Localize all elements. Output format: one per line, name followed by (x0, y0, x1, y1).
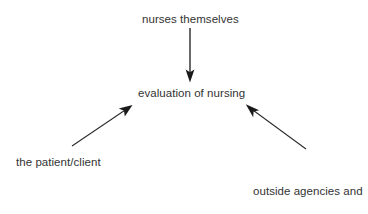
node-label-the-patient-client: the patient/client (16, 155, 101, 169)
node-label-outside-agencies: outside agencies and organisations and o… (253, 156, 363, 214)
arrow-nurses-to-evaluation (186, 28, 195, 83)
diagram-canvas: nurses themselves evaluation of nursing … (0, 0, 368, 214)
arrow-patient-to-evaluation (72, 105, 133, 146)
node-label-nurses-themselves: nurses themselves (142, 12, 239, 26)
arrow-shaft-right (254, 111, 307, 150)
node-label-evaluation-of-nursing: evaluation of nursing (138, 86, 245, 100)
arrow-head-right (246, 104, 259, 117)
arrow-head-left (119, 105, 133, 116)
arrow-agencies-to-evaluation (246, 104, 306, 149)
arrow-shaft-left (72, 111, 125, 147)
node-label-outside-agencies-line-1: outside agencies and (253, 184, 363, 198)
